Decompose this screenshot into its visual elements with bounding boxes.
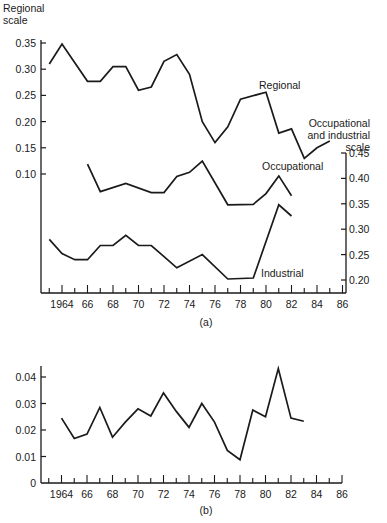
right-tick-label: 0.25 — [349, 249, 370, 261]
caption-b: (b) — [200, 504, 213, 516]
left-tick-label: 0.35 — [16, 37, 37, 49]
right-axis-title: and industrial — [308, 129, 370, 141]
x-tick-label: 82 — [286, 298, 298, 310]
y-tick-label: 0.01 — [16, 451, 37, 463]
y-tick-label: 0.02 — [16, 424, 37, 436]
annotation-industrial: Industrial — [261, 267, 304, 279]
left-tick-label: 0.25 — [16, 89, 37, 101]
y-tick-label: 0 — [30, 477, 36, 489]
chart-b-axes: 0.040.030.020.01019646668707274767880828… — [16, 366, 348, 516]
x-tick-label: 78 — [234, 488, 246, 500]
figure: 0.350.300.250.200.150.10Regionalscale0.4… — [0, 0, 387, 523]
x-tick-label: 70 — [133, 298, 145, 310]
right-tick-label: 0.40 — [349, 172, 370, 184]
chart-b: 0.040.030.020.01019646668707274767880828… — [16, 366, 348, 516]
x-tick-label: 68 — [107, 488, 119, 500]
x-tick-label: 1964 — [50, 488, 74, 500]
right-axis-title: scale — [345, 141, 370, 153]
x-tick-label: 84 — [311, 488, 323, 500]
x-tick-label: 68 — [107, 298, 119, 310]
y-tick-label: 0.03 — [16, 398, 37, 410]
annotation-occupational: Occupational — [262, 160, 323, 172]
caption-a: (a) — [200, 316, 213, 328]
x-tick-label: 72 — [158, 298, 170, 310]
x-tick-label: 74 — [183, 488, 195, 500]
x-tick-label: 78 — [235, 298, 247, 310]
left-tick-label: 0.20 — [16, 116, 37, 128]
left-tick-label: 0.15 — [16, 142, 37, 154]
right-tick-label: 0.35 — [349, 198, 370, 210]
x-tick-label: 86 — [337, 298, 349, 310]
series-line-occupational — [88, 161, 292, 205]
right-axis-title: Occupational — [309, 117, 370, 129]
series-line-regional — [49, 44, 330, 158]
y-tick-label: 0.04 — [16, 371, 37, 383]
left-axis-title: Regional — [3, 2, 44, 14]
left-tick-label: 0.10 — [16, 168, 37, 180]
left-tick-label: 0.30 — [16, 63, 37, 75]
x-tick-label: 66 — [81, 488, 93, 500]
right-tick-label: 0.30 — [349, 223, 370, 235]
series-line-industrial — [49, 205, 291, 279]
x-tick-label: 70 — [132, 488, 144, 500]
chart-a: 0.350.300.250.200.150.10Regionalscale0.4… — [3, 2, 370, 328]
annotation-regional: Regional — [259, 79, 300, 91]
chart-b-lines — [62, 369, 304, 460]
x-tick-label: 1964 — [50, 298, 74, 310]
x-tick-label: 84 — [311, 298, 323, 310]
x-tick-label: 80 — [260, 488, 272, 500]
x-tick-label: 86 — [336, 488, 348, 500]
x-tick-label: 72 — [158, 488, 170, 500]
x-tick-label: 74 — [184, 298, 196, 310]
chart-a-labels: RegionalOccupationalIndustrial — [259, 79, 323, 279]
right-tick-label: 0.20 — [349, 274, 370, 286]
x-tick-label: 76 — [209, 298, 221, 310]
x-tick-label: 80 — [260, 298, 272, 310]
x-tick-label: 66 — [82, 298, 94, 310]
series-line — [62, 369, 304, 460]
x-tick-label: 82 — [285, 488, 297, 500]
left-axis-title: scale — [3, 14, 28, 26]
x-tick-label: 76 — [209, 488, 221, 500]
